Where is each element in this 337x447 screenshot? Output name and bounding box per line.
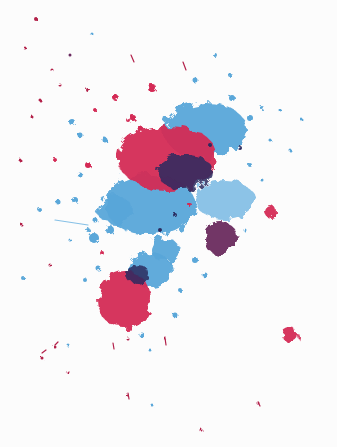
navy-lower-cap: [126, 265, 150, 285]
ink-droplet: [192, 257, 198, 263]
blue-splash-right-mid: [195, 180, 255, 220]
ink-droplet: [21, 224, 24, 227]
ink-droplet: [126, 394, 129, 397]
ink-streak: [128, 393, 129, 399]
ink-droplet: [173, 213, 177, 217]
ink-droplet: [100, 251, 104, 255]
ink-droplet: [67, 371, 70, 374]
ink-streak: [55, 342, 58, 345]
ink-droplet: [188, 203, 192, 207]
ink-droplet: [238, 146, 242, 150]
ink-droplet: [53, 158, 57, 162]
ink-droplet: [31, 116, 34, 119]
ink-droplet: [173, 313, 178, 318]
ink-droplet: [39, 99, 42, 102]
ink-droplet: [34, 17, 38, 21]
ink-droplet: [260, 106, 264, 110]
blob-layer: [97, 102, 299, 343]
ink-droplet: [261, 179, 264, 182]
ink-droplet: [54, 346, 57, 349]
ink-droplet: [69, 54, 72, 57]
navy-core-main: [157, 154, 213, 190]
ink-droplet: [91, 33, 94, 36]
ink-droplet: [89, 233, 99, 243]
ink-droplet: [38, 208, 42, 212]
ink-droplet: [158, 228, 162, 232]
ink-droplet: [103, 138, 108, 143]
ink-droplet: [86, 88, 90, 92]
ink-droplet: [244, 229, 247, 232]
ink-droplet: [21, 276, 25, 280]
ink-streak: [131, 55, 134, 62]
ink-droplet: [96, 266, 101, 271]
ink-droplet: [85, 162, 91, 168]
ink-droplet: [83, 278, 87, 282]
ink-droplet: [289, 149, 292, 152]
ink-droplet: [78, 173, 83, 178]
red-dot-bottom-right: [283, 329, 299, 343]
ink-droplet: [69, 239, 72, 242]
ink-droplet: [200, 429, 203, 432]
ink-droplet: [301, 119, 304, 122]
splatter-artwork: [0, 0, 337, 447]
ink-droplet: [51, 69, 54, 72]
ink-splatter-image: [0, 0, 337, 447]
ink-droplet: [130, 115, 136, 121]
ink-droplet: [78, 133, 83, 138]
ink-droplet: [203, 273, 208, 278]
ink-streak: [113, 343, 114, 349]
ink-droplet: [67, 344, 70, 347]
ink-droplet: [193, 78, 198, 83]
ink-droplet: [148, 84, 156, 92]
ink-droplet: [164, 337, 167, 340]
ink-streak: [183, 62, 186, 70]
ink-droplet: [106, 226, 114, 234]
ink-droplet: [41, 357, 44, 360]
ink-droplet: [59, 84, 62, 87]
ink-droplet: [19, 159, 22, 162]
ink-droplet: [140, 333, 145, 338]
ink-streak: [55, 220, 88, 225]
ink-droplet: [279, 109, 282, 112]
ink-droplet: [213, 53, 217, 57]
navy-purple-blob: [203, 221, 237, 255]
blue-splash-left: [97, 196, 133, 224]
ink-droplet: [269, 139, 272, 142]
ink-droplet: [229, 95, 235, 101]
ink-droplet: [208, 143, 212, 147]
ink-droplet: [248, 163, 252, 167]
ink-droplet: [72, 197, 78, 203]
ink-droplet: [178, 288, 182, 292]
ink-droplet: [126, 118, 130, 122]
ink-droplet: [257, 402, 260, 405]
ink-droplet: [149, 349, 152, 352]
ink-droplet: [151, 404, 154, 407]
ink-droplet: [228, 73, 232, 77]
ink-droplet: [86, 228, 90, 232]
ink-droplet: [93, 108, 97, 112]
ink-droplet: [69, 119, 75, 125]
ink-droplet: [24, 47, 27, 50]
ink-droplet: [49, 264, 52, 267]
ink-droplet: [127, 338, 130, 341]
ink-streak: [42, 350, 46, 353]
ink-droplet: [56, 200, 61, 205]
ink-droplet: [112, 94, 118, 100]
ink-droplet: [93, 218, 98, 223]
red-dot-right: [265, 206, 277, 218]
ink-droplet: [138, 126, 143, 131]
ink-droplet: [247, 115, 253, 121]
